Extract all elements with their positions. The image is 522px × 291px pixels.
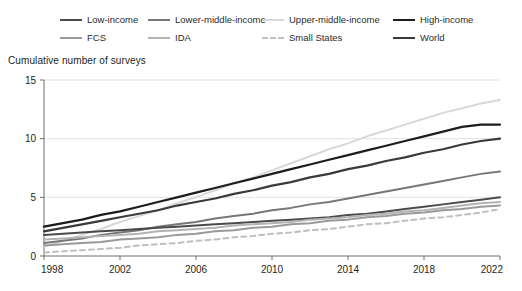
gridlines <box>44 80 500 197</box>
line-chart-svg: 051015 1998200220062010201420182022 <box>0 0 522 291</box>
x-tick-label: 2010 <box>261 264 284 275</box>
series-line <box>44 172 500 244</box>
x-tick-label: 2002 <box>109 264 132 275</box>
y-tick-label: 0 <box>30 251 36 262</box>
x-tick-label: 2022 <box>481 264 504 275</box>
y-tick-label: 10 <box>25 133 37 144</box>
x-tick-label: 2006 <box>185 264 208 275</box>
x-axis-tick-labels: 1998200220062010201420182022 <box>41 264 503 275</box>
series-line <box>44 197 500 235</box>
x-tick-label: 1998 <box>41 264 64 275</box>
x-tick-label: 2018 <box>413 264 436 275</box>
chart-container: Low-incomeLower-middle-incomeUpper-middl… <box>0 0 522 291</box>
series-lines <box>44 100 500 253</box>
y-axis-tick-labels: 051015 <box>25 75 37 262</box>
x-tick-label: 2014 <box>337 264 360 275</box>
y-tick-label: 15 <box>25 75 37 86</box>
plot-area: 051015 1998200220062010201420182022 <box>0 0 522 291</box>
y-tick-label: 5 <box>30 192 36 203</box>
